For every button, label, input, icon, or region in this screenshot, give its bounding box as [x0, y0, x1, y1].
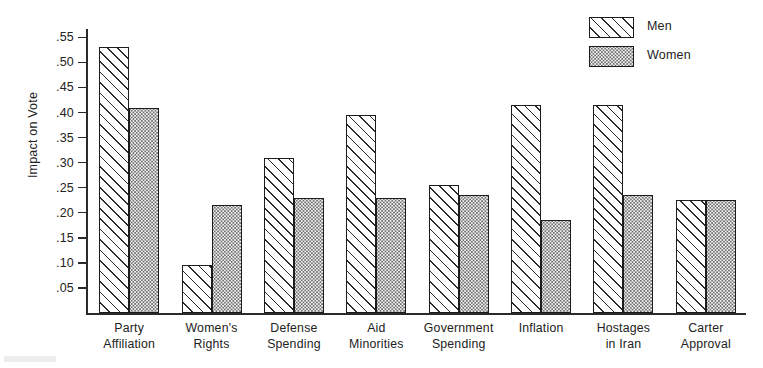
x-axis-category-label: CarterApproval	[646, 320, 763, 352]
x-axis-line	[86, 313, 746, 315]
category-label-line1: Hostages	[597, 321, 651, 335]
bar-women	[541, 220, 571, 313]
bar-women	[376, 198, 406, 313]
bar-women	[129, 108, 159, 313]
category-label-line1: Carter	[688, 321, 723, 335]
y-axis-tick-label: .05	[32, 281, 74, 295]
y-axis-tick-label: .15	[32, 231, 74, 245]
y-axis-tick	[78, 162, 87, 163]
category-label-line2: Approval	[646, 336, 763, 352]
bar-women	[212, 205, 242, 313]
y-axis-tick	[78, 287, 87, 288]
y-axis-tick	[78, 237, 87, 238]
y-axis-tick-label: .55	[32, 30, 74, 44]
y-axis-tick	[78, 112, 87, 113]
bar-women	[706, 200, 736, 313]
bar-women	[623, 195, 653, 313]
bar-chart: Impact on Vote .05.10.15.20.25.30.35.40.…	[0, 0, 763, 368]
category-label-line1: Party	[114, 321, 144, 335]
bar-men	[429, 185, 459, 313]
legend-label-women: Women	[647, 48, 691, 62]
legend-swatch-women-icon	[589, 46, 634, 67]
y-axis-tick-label: .40	[32, 106, 74, 120]
category-label-line2: Spending	[399, 336, 519, 352]
bar-men	[99, 47, 129, 313]
y-axis-tick-label: .25	[32, 181, 74, 195]
y-axis-tick-label: .10	[32, 256, 74, 270]
category-label-line1: Defense	[270, 321, 317, 335]
plot-area	[87, 29, 746, 313]
bar-men	[182, 265, 212, 313]
category-label-line1: Aid	[367, 321, 385, 335]
bar-men	[264, 158, 294, 313]
y-axis-tick	[78, 137, 87, 138]
legend-label-men: Men	[647, 19, 672, 33]
bar-men	[676, 200, 706, 313]
y-axis-tick-label: .20	[32, 206, 74, 220]
bar-men	[346, 115, 376, 313]
bar-men	[511, 105, 541, 313]
bar-women	[459, 195, 489, 313]
y-axis-tick	[78, 212, 87, 213]
legend-swatch-men-icon	[589, 17, 634, 38]
y-axis-tick	[78, 87, 87, 88]
bar-men	[593, 105, 623, 313]
bar-women	[294, 198, 324, 313]
y-axis-tick-label: .50	[32, 55, 74, 69]
y-axis-tick-label: .35	[32, 131, 74, 145]
category-label-line1: Women's	[186, 321, 238, 335]
category-label-line1: Inflation	[519, 321, 564, 335]
y-axis-tick	[78, 62, 87, 63]
scan-artifact	[4, 356, 56, 362]
y-axis-tick	[78, 37, 87, 38]
y-axis-tick	[78, 187, 87, 188]
y-axis-tick	[78, 262, 87, 263]
y-axis-tick-label: .30	[32, 156, 74, 170]
y-axis-tick-label: .45	[32, 80, 74, 94]
